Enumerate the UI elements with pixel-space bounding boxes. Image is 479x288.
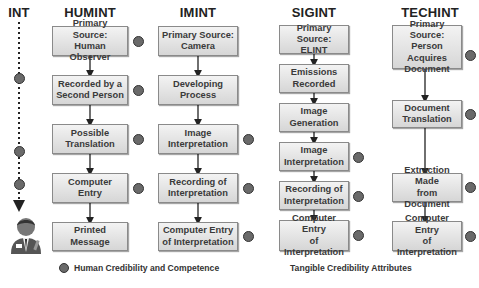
circle-icon [353,191,364,202]
sigint-step-3: Image Generation [279,103,349,132]
circle-icon [133,134,144,145]
humint-step-2: Recorded by a Second Person [52,75,128,105]
humint-step-3: Possible Translation [52,124,128,154]
techint-step-1: Primary Source: Person Acquires Document [392,25,462,69]
person-icon [9,214,43,254]
techint-step-2: Document Translation [392,100,462,128]
humint-step-5: Printed Message [52,222,128,251]
humint-step-1: Primary Source: Human Observer [52,26,128,56]
legend-triangle-label: Tangible Credibility Attributes [290,263,412,273]
sigint-step-5: Recording of Interpretation [279,181,349,210]
techint-step-4: Computer Entry of Interpretation [392,221,462,251]
circle-icon [243,183,254,194]
legend-circle-icon [59,263,69,273]
imint-step-3: Image Interpretation [158,124,238,154]
circle-icon [353,230,364,241]
sigint-step-4: Image Interpretation [279,142,349,171]
humint-step-4: Computer Entry [52,173,128,203]
circle-icon [353,152,364,163]
sigint-step-2: Emissions Recorded [279,64,349,93]
circle-icon [465,50,476,61]
circle-icon [14,146,25,157]
circle-icon [14,73,25,84]
sigint-step-6: Computer Entry of Interpretation [279,220,349,251]
circle-icon [243,231,254,242]
imint-step-4: Recording of Interpretation [158,173,238,203]
techint-step-3: Extraction Made from Document [392,173,462,202]
imint-step-5: Computer Entry of Interpretation [158,222,238,251]
circle-icon [133,36,144,47]
legend-circle-label: Human Credibility and Competence [74,263,219,273]
circle-icon [133,85,144,96]
circle-icon [133,183,144,194]
imint-step-1: Primary Source: Camera [158,26,238,56]
circle-icon [465,231,476,242]
imint-step-2: Developing Process [158,75,238,105]
circle-icon [14,179,25,190]
circle-icon [465,182,476,193]
circle-icon [465,109,476,120]
circle-icon [243,134,254,145]
sigint-step-1: Primary Source: ELINT [279,25,349,54]
